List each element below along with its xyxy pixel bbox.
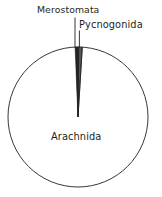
pie-chart-figure: Merostomata Pycnogonida Arachnida [0, 0, 162, 197]
slice-label-merostomata: Merostomata [37, 4, 99, 15]
slice-label-pycnogonida: Pycnogonida [79, 19, 143, 30]
slice-label-arachnida: Arachnida [51, 131, 101, 142]
